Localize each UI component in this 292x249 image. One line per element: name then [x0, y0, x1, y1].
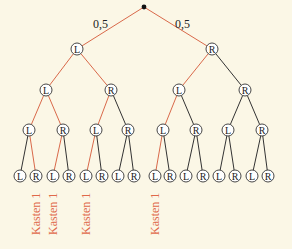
tree-edge	[54, 136, 61, 170]
tree-edge	[31, 96, 43, 125]
leaf-outcome-labels: Kasten 1Kasten 1Kasten 1Kasten 1	[29, 193, 162, 235]
tree-edge	[30, 136, 35, 170]
tree-edge	[129, 136, 133, 170]
kasten-label: Kasten 1	[29, 193, 43, 235]
node-label: L	[225, 125, 231, 136]
kasten-label: Kasten 1	[46, 193, 60, 235]
kasten-label: Kasten 1	[148, 193, 162, 235]
tree-edge	[81, 54, 107, 86]
tree-node-l: L	[213, 170, 225, 182]
tree-node-l: L	[173, 84, 185, 96]
node-label: L	[74, 44, 80, 55]
tree-node-l: L	[157, 124, 169, 136]
tree-node-l: L	[80, 170, 92, 182]
tree-edge	[97, 136, 101, 170]
kasten-label: Kasten 1	[79, 193, 93, 235]
tree-node-r: R	[96, 170, 108, 182]
tree-edges	[21, 8, 267, 170]
tree-edge	[187, 136, 194, 170]
node-label: R	[33, 171, 40, 182]
tree-node-l: L	[112, 170, 124, 182]
node-label: L	[176, 85, 182, 96]
tree-edge	[87, 136, 94, 170]
node-label: L	[93, 125, 99, 136]
tree-edge	[156, 136, 162, 170]
probability-labels: 0,50,5	[93, 17, 190, 31]
node-label: R	[265, 171, 272, 182]
tree-node-l: L	[40, 84, 52, 96]
tree-node-r: R	[190, 124, 202, 136]
tree-edge	[21, 136, 28, 170]
node-label: L	[216, 171, 222, 182]
tree-node-r: R	[57, 124, 69, 136]
tree-edge	[181, 96, 193, 125]
node-label: R	[200, 171, 207, 182]
root-node	[142, 5, 147, 10]
probability-tree-diagram: LRLRLRLRLRLRLRLRLRLRLRLRLRLRLR 0,50,5 Ka…	[0, 0, 292, 249]
tree-node-r: R	[164, 170, 176, 182]
tree-node-l: L	[149, 170, 161, 182]
node-label: L	[152, 171, 158, 182]
tree-node-r: R	[256, 124, 268, 136]
tree-edge	[230, 96, 242, 125]
tree-node-r: R	[128, 170, 140, 182]
tree-node-l: L	[90, 124, 102, 136]
tree-node-r: R	[30, 170, 42, 182]
tree-canvas: LRLRLRLRLRLRLRLRLRLRLRLRLRLRLR 0,50,5 Ka…	[0, 0, 292, 249]
node-label: R	[131, 171, 138, 182]
tree-edge	[247, 96, 259, 125]
tree-edge	[50, 54, 74, 85]
tree-node-r: R	[63, 170, 75, 182]
tree-node-r: R	[262, 170, 274, 182]
node-label: R	[108, 85, 115, 96]
tree-edge	[197, 136, 202, 170]
probability-label: 0,5	[93, 17, 108, 31]
tree-edge	[164, 136, 169, 170]
tree-edge	[48, 96, 60, 125]
tree-node-r: R	[239, 84, 251, 96]
tree-edge	[165, 96, 177, 125]
node-label: R	[193, 125, 200, 136]
node-label: L	[17, 171, 23, 182]
tree-edge	[64, 136, 68, 170]
tree-node-r: R	[197, 170, 209, 182]
node-label: R	[232, 171, 239, 182]
tree-edge	[229, 136, 234, 170]
tree-node-l: L	[222, 124, 234, 136]
node-label: R	[60, 125, 67, 136]
node-label: L	[115, 171, 121, 182]
tree-node-r: R	[229, 170, 241, 182]
tree-edge	[183, 54, 208, 86]
node-label: R	[209, 44, 216, 55]
tree-edge	[253, 136, 260, 170]
tree-edge	[119, 136, 126, 170]
node-label: R	[66, 171, 73, 182]
tree-node-r: R	[105, 84, 117, 96]
tree-node-l: L	[23, 124, 35, 136]
tree-edge	[263, 136, 267, 170]
node-label: L	[83, 171, 89, 182]
node-label: L	[249, 171, 255, 182]
node-label: L	[160, 125, 166, 136]
node-label: R	[99, 171, 106, 182]
node-label: L	[50, 171, 56, 182]
tree-node-r: R	[206, 43, 218, 55]
node-label: R	[242, 85, 249, 96]
tree-node-l: L	[47, 170, 59, 182]
node-label: L	[26, 125, 32, 136]
tree-node-l: L	[246, 170, 258, 182]
tree-node-l: L	[14, 170, 26, 182]
tree-edge	[220, 136, 227, 170]
tree-edge	[98, 96, 109, 125]
node-label: R	[259, 125, 266, 136]
tree-node-l: L	[180, 170, 192, 182]
root-dot	[142, 5, 147, 10]
tree-edge	[82, 8, 142, 46]
tree-node-r: R	[122, 124, 134, 136]
tree-node-l: L	[71, 43, 83, 55]
node-label: L	[43, 85, 49, 96]
node-label: R	[167, 171, 174, 182]
node-label: L	[183, 171, 189, 182]
tree-edge	[216, 54, 241, 86]
probability-label: 0,5	[175, 17, 190, 31]
